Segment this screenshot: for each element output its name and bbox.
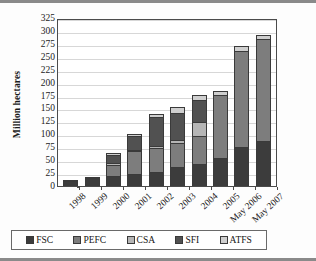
x-tick-mark	[189, 187, 190, 190]
y-tick-label: 25	[46, 169, 56, 179]
y-tick-label: 125	[41, 118, 55, 128]
x-tick-mark	[145, 187, 146, 190]
y-tick-label: 300	[41, 27, 55, 37]
bar-segment-sfi[interactable]	[127, 136, 142, 149]
legend-swatch-icon	[26, 236, 34, 244]
legend-swatch-icon	[220, 236, 228, 244]
y-tick-label: 50	[46, 156, 56, 166]
bar-segment-pefc[interactable]	[256, 39, 271, 140]
bar-segment-sfi[interactable]	[170, 113, 185, 139]
x-tick-mark	[101, 187, 102, 190]
y-tick-label: 275	[41, 40, 55, 50]
bar-column[interactable]	[213, 20, 228, 186]
y-tick-label: 75	[46, 143, 56, 153]
bar-segment-fsc[interactable]	[106, 176, 121, 186]
bar-segment-pefc[interactable]	[106, 165, 121, 176]
chart-page: Million hectares 02550751001251501752002…	[0, 0, 316, 261]
bar-column[interactable]	[63, 20, 78, 186]
chart-legend: FSCPEFCCSASFIATFS	[11, 230, 267, 250]
bar-column[interactable]	[85, 20, 100, 186]
x-tick-mark	[233, 187, 234, 190]
legend-item-sfi[interactable]: SFI	[175, 235, 199, 245]
legend-label: PEFC	[83, 235, 106, 245]
bar-segment-fsc[interactable]	[127, 174, 142, 186]
bar-column[interactable]	[192, 20, 207, 186]
bar-segment-csa[interactable]	[192, 122, 207, 136]
x-tick-mark	[211, 187, 212, 190]
legend-item-atfs[interactable]: ATFS	[220, 235, 252, 245]
bar-segment-pefc[interactable]	[192, 136, 207, 163]
plot-area	[57, 19, 277, 187]
x-tick-mark	[167, 187, 168, 190]
bar-column[interactable]	[149, 20, 164, 186]
bar-segment-fsc[interactable]	[170, 167, 185, 186]
bar-column[interactable]	[170, 20, 185, 186]
legend-label: FSC	[36, 235, 53, 245]
bar-series-group	[58, 20, 276, 186]
bar-segment-pefc[interactable]	[149, 148, 164, 171]
x-tick-mark	[123, 187, 124, 190]
bar-segment-fsc[interactable]	[213, 158, 228, 186]
legend-swatch-icon	[127, 236, 135, 244]
y-tick-label: 0	[50, 182, 55, 192]
plot-area-wrapper	[57, 19, 277, 187]
y-tick-label: 225	[41, 66, 55, 76]
bar-segment-fsc[interactable]	[234, 147, 249, 186]
bar-column[interactable]	[106, 20, 121, 186]
bar-segment-sfi[interactable]	[149, 117, 164, 145]
legend-item-fsc[interactable]: FSC	[26, 235, 53, 245]
bar-segment-fsc[interactable]	[256, 141, 271, 186]
bar-column[interactable]	[127, 20, 142, 186]
y-tick-label: 175	[41, 92, 55, 102]
y-tick-label: 150	[41, 105, 55, 115]
bar-segment-fsc[interactable]	[63, 181, 78, 186]
y-tick-label: 100	[41, 131, 55, 141]
legend-swatch-icon	[73, 236, 81, 244]
bar-segment-pefc[interactable]	[213, 95, 228, 159]
bar-column[interactable]	[234, 20, 249, 186]
bar-segment-pefc[interactable]	[170, 143, 185, 168]
bar-segment-pefc[interactable]	[234, 51, 249, 147]
y-axis-title-text: Million hectares	[12, 71, 22, 138]
y-tick-label: 325	[41, 14, 55, 24]
bar-segment-pefc[interactable]	[127, 151, 142, 173]
y-tick-label: 200	[41, 79, 55, 89]
x-tick-mark	[79, 187, 80, 190]
bar-segment-fsc[interactable]	[149, 172, 164, 186]
bar-column[interactable]	[256, 20, 271, 186]
legend-label: CSA	[137, 235, 155, 245]
y-axis-tick-labels: 0255075100125150175200225250275300325	[22, 19, 55, 187]
legend-item-csa[interactable]: CSA	[127, 235, 155, 245]
legend-swatch-icon	[175, 236, 183, 244]
legend-label: SFI	[185, 235, 199, 245]
x-tick-mark	[255, 187, 256, 190]
bar-segment-fsc[interactable]	[192, 164, 207, 186]
x-tick-mark	[277, 187, 278, 190]
bar-segment-sfi[interactable]	[192, 100, 207, 122]
x-axis-tick-labels: 19981999200020012002200320042005May 2006…	[57, 187, 277, 227]
top-rule	[0, 0, 316, 3]
y-tick-label: 250	[41, 53, 55, 63]
bar-segment-fsc[interactable]	[85, 178, 100, 186]
bar-segment-sfi[interactable]	[106, 155, 121, 164]
legend-item-pefc[interactable]: PEFC	[73, 235, 106, 245]
legend-label: ATFS	[230, 235, 252, 245]
